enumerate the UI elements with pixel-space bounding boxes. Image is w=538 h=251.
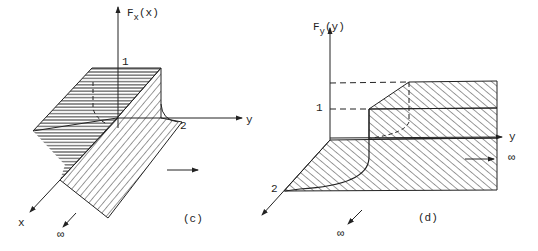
- base-plane-d: [284, 138, 497, 191]
- fx-axis-label: Fx(x): [127, 8, 159, 19]
- x-infinity-label-d: ∞: [337, 228, 344, 240]
- panel-c: [30, 7, 242, 227]
- level-one-label-c: 1: [122, 57, 129, 68]
- fx-arg: (x): [139, 7, 159, 19]
- front-face-d: [369, 108, 497, 139]
- y-axis-label-d: y: [509, 132, 516, 143]
- fx-main: F: [127, 7, 134, 19]
- fy-main: F: [313, 21, 320, 33]
- panel-d: [262, 28, 502, 224]
- x-tick-two-d: 2: [271, 184, 278, 195]
- x-infinity-label-c: ∞: [57, 229, 64, 241]
- y-infinity-label-d: ∞: [508, 152, 515, 164]
- fy-axis-label: Fy(y): [313, 22, 345, 33]
- x-axis-label-c: x: [18, 218, 25, 229]
- x-infinity-arrow-d: [348, 210, 362, 224]
- y-axis-label-c: y: [246, 115, 253, 126]
- top-plane-d: [369, 81, 497, 109]
- fy-arg: (y): [325, 21, 345, 33]
- x-infinity-arrow-c: [63, 213, 76, 227]
- y-tick-two-c: 2: [180, 121, 187, 132]
- caption-d: (d): [418, 213, 438, 224]
- diagram-canvas: [0, 0, 538, 251]
- dashed-level-upper: [330, 82, 409, 83]
- fy-sub: y: [320, 27, 325, 37]
- caption-c: (c): [183, 214, 203, 225]
- fx-sub: x: [134, 13, 139, 23]
- level-one-label-d: 1: [316, 103, 323, 114]
